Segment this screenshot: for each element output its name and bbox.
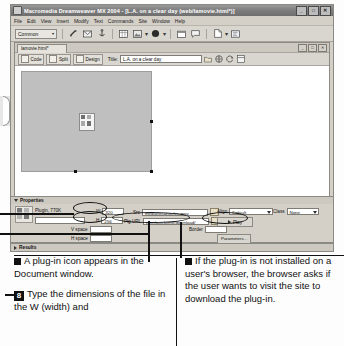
page-edge-artifact <box>0 96 10 126</box>
properties-panel-title: Properties <box>20 198 44 203</box>
comment-icon[interactable] <box>190 28 201 39</box>
caption-step-8: 8Type the dimensions of the file in the … <box>14 288 166 314</box>
close-button[interactable]: ✕ <box>320 6 331 16</box>
menu-item-edit[interactable]: Edit <box>27 18 36 24</box>
caption-column-left: A plug-in icon appears in the Document w… <box>14 255 166 346</box>
class-label: Class <box>273 209 285 214</box>
dropdown-dot[interactable]: ▾ <box>145 31 148 37</box>
minimize-button[interactable]: _ <box>296 6 307 16</box>
insert-toolbar: Common ▾ ▾ ▾ ▾ <box>11 26 333 42</box>
plugin-puzzle-icon <box>79 113 95 131</box>
maximize-button[interactable]: □ <box>308 6 319 16</box>
image-icon[interactable] <box>132 28 143 39</box>
menu-item-window[interactable]: Window <box>152 18 170 24</box>
design-view-label: Design <box>85 57 99 62</box>
design-view-icon <box>76 55 84 63</box>
step-number-badge: 8 <box>14 291 24 301</box>
toolbar-separator <box>62 29 63 39</box>
split-view-button[interactable]: Split <box>46 54 70 65</box>
document-close-button[interactable]: ✕ <box>318 44 327 52</box>
caption-note-left-text: A plug-in icon appears in the Document w… <box>14 255 144 279</box>
title-bar: Macromedia Dreamweaver MX 2004 - [L.A. o… <box>11 5 333 16</box>
code-view-label: Code <box>31 57 42 62</box>
caption-area: A plug-in icon appears in the Document w… <box>0 255 344 346</box>
class-select[interactable]: None <box>287 208 319 215</box>
file-management-icon[interactable] <box>204 55 213 64</box>
caption-column-right: If the plug-in is not installed on a use… <box>185 255 341 346</box>
table-icon[interactable] <box>118 28 129 39</box>
leader-line-horizontal-lower <box>0 233 150 235</box>
border-row: Border <box>189 226 227 233</box>
anchor-icon[interactable] <box>96 28 107 39</box>
selection-handle-right[interactable] <box>150 120 153 123</box>
caption-note-right: If the plug-in is not installed on a use… <box>185 255 341 305</box>
menu-item-modify[interactable]: Modify <box>74 18 89 24</box>
preview-browser-icon[interactable] <box>215 55 224 64</box>
caption-note-right-text: If the plug-in is not installed on a use… <box>185 255 331 304</box>
refresh-design-icon[interactable] <box>226 55 235 64</box>
selection-handle-corner[interactable] <box>150 170 153 173</box>
template-icon[interactable] <box>212 28 223 39</box>
vspace-label: V space <box>71 227 88 232</box>
page-title-label: Title: <box>108 57 118 62</box>
menu-item-site[interactable]: Site <box>138 18 147 24</box>
caption-column-divider <box>176 258 177 346</box>
view-options-icon[interactable] <box>237 55 246 64</box>
leader-line-vertical-play <box>180 222 182 258</box>
plugin-placeholder[interactable] <box>21 71 152 172</box>
square-bullet-icon <box>185 258 192 265</box>
toolbar-separator <box>206 29 207 39</box>
dreamweaver-icon <box>13 6 22 15</box>
insert-category-label: Common <box>18 31 38 37</box>
hspace-row: H space <box>71 235 112 242</box>
chevron-down-icon[interactable] <box>14 199 18 202</box>
email-link-icon[interactable] <box>82 28 93 39</box>
menu-item-view[interactable]: View <box>41 18 52 24</box>
design-view-button[interactable]: Design <box>73 54 103 65</box>
square-bullet-icon <box>14 258 21 265</box>
split-view-icon <box>49 55 57 63</box>
document-tab-row: lamovie.html* _ □ ✕ <box>15 43 329 53</box>
hspace-label: H space <box>71 236 88 241</box>
menu-bar[interactable]: File Edit View Insert Modify Text Comman… <box>11 16 333 26</box>
menu-item-insert[interactable]: Insert <box>56 18 69 24</box>
document-tab-lamovie[interactable]: lamovie.html* <box>17 44 67 53</box>
hyperlink-icon[interactable] <box>68 28 79 39</box>
callout-oval-play-button <box>202 212 248 224</box>
callout-oval-height-field <box>73 211 107 223</box>
chevron-down-icon: ▾ <box>52 31 54 36</box>
window-controls[interactable]: _ □ ✕ <box>296 6 331 16</box>
dropdown-dot[interactable]: ▾ <box>163 31 166 37</box>
document-window-controls[interactable]: _ □ ✕ <box>298 44 327 52</box>
page-title-input[interactable]: L.A. on a clear day <box>120 55 202 63</box>
step-leader-rule <box>5 294 14 296</box>
date-icon[interactable] <box>176 28 187 39</box>
caption-note-left: A plug-in icon appears in the Document w… <box>14 255 166 280</box>
menu-item-file[interactable]: File <box>14 18 22 24</box>
vspace-input[interactable] <box>90 226 112 233</box>
tag-chooser-icon[interactable] <box>230 28 241 39</box>
caption-step-8-text: Type the dimensions of the file in the W… <box>14 288 165 312</box>
border-input[interactable] <box>205 226 227 233</box>
document-minimize-button[interactable]: _ <box>298 44 307 52</box>
properties-panel-header[interactable]: Properties <box>11 197 333 204</box>
split-view-label: Split <box>59 57 68 62</box>
dropdown-dot[interactable]: ▾ <box>225 31 228 37</box>
callout-oval-plugin-url <box>112 212 190 223</box>
media-icon[interactable] <box>150 28 161 39</box>
scanned-manual-page: Macromedia Dreamweaver MX 2004 - [L.A. o… <box>0 0 344 346</box>
menu-item-text[interactable]: Text <box>94 18 103 24</box>
window-title: Macromedia Dreamweaver MX 2004 - [L.A. o… <box>24 8 296 14</box>
document-maximize-button[interactable]: □ <box>308 44 317 52</box>
selection-handle-bottom[interactable] <box>74 170 77 173</box>
menu-item-commands[interactable]: Commands <box>108 18 134 24</box>
code-view-button[interactable]: Code <box>18 54 44 65</box>
chevron-right-icon[interactable] <box>14 246 17 250</box>
results-panel-label: Results <box>19 245 36 250</box>
hspace-input[interactable] <box>90 235 112 242</box>
toolbar-separator <box>112 29 113 39</box>
results-panel[interactable]: Results <box>10 243 334 252</box>
insert-category-dropdown[interactable]: Common ▾ <box>15 29 57 39</box>
toolbar-separator <box>170 29 171 39</box>
menu-item-help[interactable]: Help <box>175 18 185 24</box>
